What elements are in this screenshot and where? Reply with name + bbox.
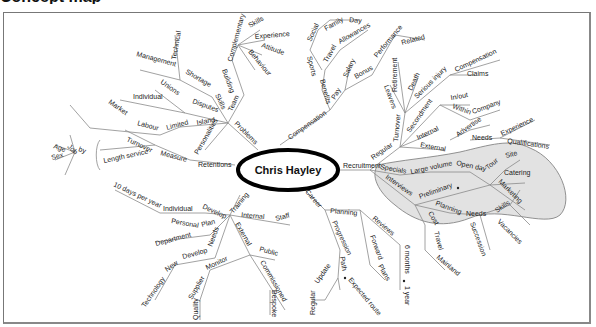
- node-length-service[interactable]: Length service: [103, 148, 149, 165]
- node-vacancies[interactable]: Vacancies: [496, 218, 524, 246]
- node-individual[interactable]: Individual: [133, 93, 163, 100]
- node-unions[interactable]: Unions: [159, 78, 181, 97]
- node-pay[interactable]: Pay: [330, 86, 343, 101]
- node-rec-travel[interactable]: Travel: [433, 230, 445, 251]
- node-complementary[interactable]: Complementary: [226, 12, 247, 62]
- node-team[interactable]: Team: [227, 94, 241, 113]
- node-progression[interactable]: Progression: [330, 219, 353, 256]
- months-bullet: [403, 280, 405, 282]
- node-related[interactable]: Related: [400, 33, 425, 46]
- node-technology[interactable]: Technology: [140, 275, 167, 309]
- node-retirement[interactable]: Retirement: [391, 58, 398, 92]
- node-recruitment[interactable]: Recruitment: [343, 162, 381, 169]
- node-develop[interactable]: Develop: [201, 203, 228, 221]
- node-day[interactable]: Day: [349, 16, 363, 25]
- node-path[interactable]: Path: [339, 256, 348, 272]
- node-limited[interactable]: Limited: [165, 118, 189, 131]
- node-plans[interactable]: Plans: [377, 263, 392, 282]
- node-quality[interactable]: Quality: [192, 298, 200, 320]
- node-department[interactable]: Department: [154, 231, 191, 248]
- node-comp-skills[interactable]: Skills: [247, 14, 265, 28]
- node-retentions[interactable]: Retentions: [198, 161, 232, 168]
- node-career-planning[interactable]: Planning: [330, 207, 358, 217]
- node-update[interactable]: Update: [313, 262, 333, 285]
- node-comp-behaviour[interactable]: Behaviour: [247, 48, 273, 77]
- node-train-needs[interactable]: Needs: [206, 225, 220, 247]
- node-succession[interactable]: Succession: [469, 221, 488, 257]
- node-personal[interactable]: Personal: [171, 217, 200, 229]
- node-needs[interactable]: Needs: [472, 134, 493, 141]
- node-sports[interactable]: Sports: [305, 55, 318, 77]
- node-shortage[interactable]: Shortage: [184, 68, 213, 89]
- node-building[interactable]: Building: [220, 68, 236, 94]
- mind-map: Chris Hayley Problems Team Building Comp…: [0, 0, 596, 327]
- node-ten-days[interactable]: 10 days per year: [112, 181, 163, 211]
- node-family[interactable]: Family: [323, 15, 345, 32]
- node-forward[interactable]: Forward: [369, 234, 384, 261]
- node-comp-experience[interactable]: Experience: [254, 30, 290, 41]
- node-bespoke[interactable]: Bespoke: [270, 290, 278, 317]
- node-performance[interactable]: Performance: [372, 23, 403, 58]
- node-turnover[interactable]: Turnover: [392, 113, 401, 142]
- node-social[interactable]: Social: [306, 22, 321, 43]
- node-technical[interactable]: Technical: [170, 30, 182, 60]
- node-expected-route[interactable]: Expected route: [346, 276, 382, 317]
- node-allowances[interactable]: Allowances: [337, 21, 372, 45]
- node-develop2[interactable]: Develop: [181, 247, 208, 261]
- preliminary-bullet: [457, 187, 459, 189]
- node-mainland[interactable]: Mainland: [435, 253, 461, 277]
- node-train-individual[interactable]: Individual: [163, 205, 193, 212]
- node-sex[interactable]: Sex: [50, 151, 64, 161]
- route-bullet: [344, 277, 346, 279]
- node-company[interactable]: Company: [471, 98, 502, 116]
- node-regular[interactable]: Regular: [370, 141, 395, 162]
- node-disputes[interactable]: Disputes: [191, 97, 220, 114]
- node-job[interactable]: Job: [66, 143, 79, 156]
- node-within[interactable]: Within: [452, 102, 473, 115]
- node-in-out[interactable]: In/out: [450, 91, 469, 101]
- node-comp-attitude[interactable]: Attitude: [261, 41, 286, 56]
- node-compensation[interactable]: Compensation: [287, 109, 329, 142]
- node-career-regular[interactable]: Regular: [309, 290, 317, 315]
- node-staff[interactable]: Staff: [274, 211, 290, 221]
- node-monitor[interactable]: Monitor: [204, 254, 229, 270]
- node-experience[interactable]: Experience: [499, 116, 534, 138]
- node-serious-injury[interactable]: Serious injury: [413, 64, 449, 100]
- node-problems[interactable]: Problems: [233, 120, 259, 146]
- node-one-year[interactable]: 1 year: [403, 286, 411, 306]
- node-measure[interactable]: Measure: [160, 149, 188, 163]
- center-node-label: Chris Hayley: [255, 164, 323, 176]
- node-labour[interactable]: Labour: [137, 119, 161, 132]
- node-train-internal[interactable]: Internal: [241, 211, 265, 220]
- node-career[interactable]: Career: [304, 188, 324, 209]
- node-planning-needs[interactable]: Needs: [466, 210, 487, 217]
- node-claims[interactable]: Claims: [467, 70, 489, 77]
- node-travel[interactable]: Travel: [322, 43, 338, 64]
- node-external[interactable]: External: [420, 141, 447, 152]
- node-six-months[interactable]: 6 months: [404, 245, 411, 274]
- node-catering[interactable]: Catering: [504, 169, 531, 177]
- node-public[interactable]: Public: [259, 245, 280, 257]
- node-bonus[interactable]: Bonus: [353, 64, 374, 80]
- node-benefits[interactable]: Benefits: [319, 78, 332, 105]
